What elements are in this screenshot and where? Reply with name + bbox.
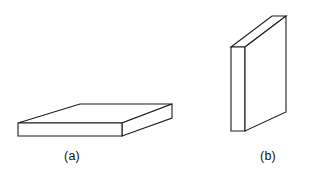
caption-label-a: (a)	[40, 150, 104, 163]
caption-label-b: (b)	[236, 150, 300, 163]
shape-a-group	[18, 104, 172, 136]
shape-a-front-face	[18, 123, 122, 136]
shape-b-left-side-face	[231, 47, 245, 131]
shape-b-group	[231, 16, 286, 131]
